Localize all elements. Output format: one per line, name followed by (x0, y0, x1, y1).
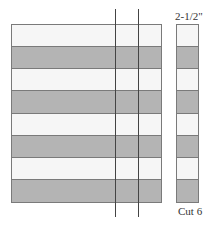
cut-line-1 (115, 9, 116, 217)
cut-strip-band-dark (177, 136, 198, 158)
cut-strip-band-light (177, 25, 198, 47)
cut-strip-band-light (177, 158, 198, 180)
cut-strip-band-dark (177, 180, 198, 202)
cut-strip (176, 24, 199, 203)
cut-strip-band-light (177, 114, 198, 136)
cut-strip-band-light (177, 69, 198, 91)
cut-strip-label-width: 2-1/2" (175, 10, 203, 22)
cut-strip-band-dark (177, 47, 198, 69)
cut-strip-band-dark (177, 91, 198, 113)
cut-line-2 (138, 9, 139, 217)
sewn-strip-set (11, 24, 162, 203)
cut-strip-label-count: Cut 6 (178, 205, 202, 217)
